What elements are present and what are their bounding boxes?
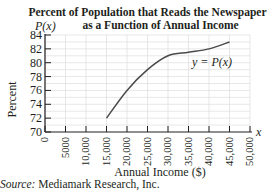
y-tick-label: 72 <box>21 112 42 124</box>
y-tick-label: 70 <box>21 126 42 138</box>
y-tick-label: 84 <box>21 29 42 41</box>
curve-label: y = P(x) <box>191 55 232 69</box>
y-tick-label: 80 <box>21 57 42 69</box>
source-note: Source: Mediamark Research, Inc. <box>0 178 160 190</box>
x-tick-label: 20,000 <box>122 137 132 166</box>
x-tick-label: 25,000 <box>143 137 153 166</box>
y-tick-label: 74 <box>21 98 42 110</box>
y-tick-label: 76 <box>21 84 42 96</box>
x-tick-label: 50,000 <box>245 137 255 166</box>
x-tick-label: 35,000 <box>184 137 194 166</box>
source-text: Mediamark Research, Inc. <box>35 178 159 190</box>
x-tick-label: 5000 <box>61 137 71 158</box>
x-tick-label: 15,000 <box>102 137 112 166</box>
x-axis-variable: x <box>256 125 261 140</box>
x-tick-label: 30,000 <box>163 137 173 166</box>
x-tick-label: 40,000 <box>204 137 214 166</box>
x-tick-label: 10,000 <box>81 137 91 166</box>
source-label: Source: <box>0 178 35 190</box>
x-tick-label: 45,000 <box>225 137 235 166</box>
x-tick-label: 0 <box>40 137 50 142</box>
y-tick-label: 78 <box>21 71 42 83</box>
y-tick-label: 82 <box>21 43 42 55</box>
